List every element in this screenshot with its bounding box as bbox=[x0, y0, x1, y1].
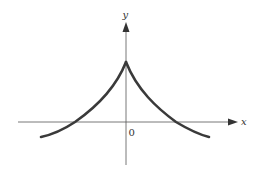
curve-left-branch bbox=[41, 62, 126, 137]
origin-label: 0 bbox=[129, 127, 135, 138]
curve-right-branch bbox=[126, 62, 209, 137]
chart-canvas: x y 0 bbox=[0, 0, 255, 171]
y-axis-label: y bbox=[122, 9, 129, 20]
x-axis-arrow-icon bbox=[228, 119, 238, 126]
y-axis-arrow-icon bbox=[123, 22, 130, 32]
x-axis-label: x bbox=[241, 116, 247, 127]
